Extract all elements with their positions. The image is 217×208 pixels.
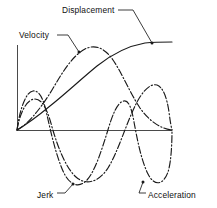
velocity-leader-dot bbox=[78, 51, 81, 54]
kinematics-curves-figure: Displacement Velocity Jerk Acceleration bbox=[0, 0, 217, 208]
displacement-label: Displacement bbox=[62, 6, 115, 14]
displacement-leader bbox=[118, 10, 152, 43]
displacement-curve bbox=[17, 42, 172, 130]
jerk-curve bbox=[17, 91, 172, 185]
jerk-leader-dot bbox=[72, 183, 75, 186]
velocity-label: Velocity bbox=[19, 31, 49, 39]
acceleration-leader-dot bbox=[142, 181, 145, 184]
leader-lines-group bbox=[57, 10, 154, 193]
jerk-leader bbox=[57, 184, 73, 193]
velocity-leader bbox=[57, 35, 79, 52]
acceleration-leader bbox=[139, 182, 146, 193]
acceleration-label: Acceleration bbox=[148, 191, 196, 199]
displacement-leader-dot bbox=[151, 42, 154, 45]
velocity-curve bbox=[17, 47, 172, 130]
jerk-label: Jerk bbox=[37, 191, 53, 199]
